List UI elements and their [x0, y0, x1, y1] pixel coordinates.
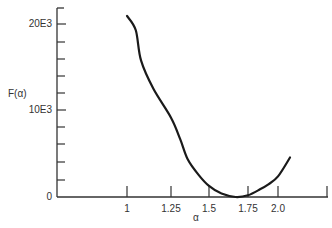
y-tick-label: 20E3 — [12, 19, 52, 29]
y-axis-label: F(α) — [8, 89, 27, 99]
x-tick-label: 1.25 — [156, 204, 186, 214]
x-tick-label: 2.0 — [263, 204, 293, 214]
y-ticks — [57, 24, 66, 180]
x-tick-label: 1.75 — [233, 204, 263, 214]
y-tick-label: 10E3 — [12, 105, 52, 115]
y-tick-label: 0 — [12, 192, 52, 202]
f-alpha-curve — [127, 16, 290, 197]
x-tick-label: 1 — [112, 204, 142, 214]
x-axis-label: α — [193, 213, 199, 223]
